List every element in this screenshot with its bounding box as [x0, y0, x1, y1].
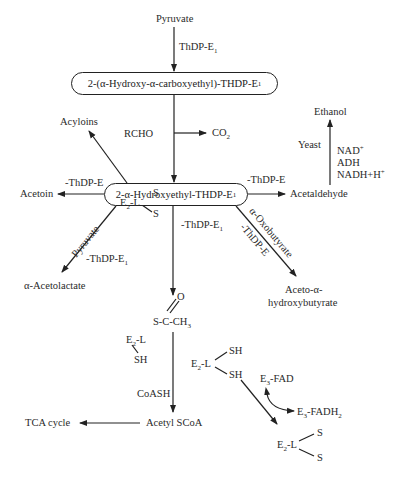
sub: 3	[187, 322, 191, 330]
node-pyruvate: Pyruvate	[156, 14, 193, 25]
l-text: -L	[130, 197, 140, 208]
e2-lipoyl-oxidized-mid: E2-L	[120, 198, 140, 209]
sup: +	[381, 168, 385, 176]
sub: 1	[214, 47, 218, 55]
label-nad: NAD+	[337, 146, 364, 157]
arrow-dihydrolipoyl-to-lipoyl	[241, 380, 277, 424]
arrow-aceto-hydroxybutyrate	[236, 206, 296, 276]
label-nadh: NADH+H+	[337, 170, 385, 181]
node-e3-fadh2: E3-FADH2	[297, 407, 342, 418]
label-minus-thdp-e-left: -ThDP-E	[65, 178, 104, 189]
arrow-acyloins	[89, 131, 127, 183]
label-rcho: RCHO	[124, 129, 153, 140]
sub: 2	[227, 133, 231, 141]
l-text: -L	[287, 439, 297, 450]
node-hydroxy-carboxyethyl-thdp: 2-(α-Hydroxy-α-carboxyethyl)-THDP-E1	[71, 72, 278, 95]
node-ethanol: Ethanol	[314, 107, 347, 118]
s-atom: S	[153, 209, 159, 220]
fad-text: -FAD	[270, 373, 294, 384]
label-minus-thdp-e1-mid: -ThDP-E1	[181, 220, 223, 231]
label-minus-thdp-e1-left: -ThDP-E1	[86, 254, 128, 265]
nadh-text: NADH+H	[337, 169, 381, 180]
label-adh: ADH	[337, 158, 360, 169]
e2-dihydrolipoyl: E2-L	[191, 359, 211, 370]
node-acetaldehyde: Acetaldehyde	[290, 189, 348, 200]
e2-lipoyl-oxidized-bottom: E2-L	[277, 440, 297, 451]
s-atom: S	[317, 428, 323, 439]
nad-text: NAD	[337, 145, 360, 156]
sub: 2	[338, 412, 342, 420]
l-text: -L	[136, 334, 146, 345]
node-acetyl-lipoyl: S-C-CH3	[153, 317, 191, 328]
node-aceto-hydroxybutyrate-line1: Aceto-α-	[285, 285, 323, 296]
node-acetolactate: α-Acetolactate	[24, 281, 85, 292]
label-yeast: Yeast	[298, 140, 321, 151]
e2-lipoyl-acetyl: E2-L	[126, 335, 146, 346]
label-thdp-e1-text: ThDP-E	[179, 41, 214, 52]
sub: 1	[125, 259, 129, 267]
sh-group: SH	[229, 370, 242, 381]
node-aceto-hydroxybutyrate-line2: hydroxybutyrate	[268, 298, 337, 309]
fadh-text: -FADH	[307, 406, 338, 417]
s-atom: S	[153, 188, 159, 199]
sub: 1	[220, 225, 224, 233]
label-thdp-e1: ThDP-E1	[179, 42, 218, 53]
s-atom: S	[317, 453, 323, 464]
node-e3-fad: E3-FAD	[260, 374, 294, 385]
node-tca-cycle: TCA cycle	[25, 418, 70, 429]
sh-group: SH	[229, 346, 242, 357]
co2-text: CO	[212, 127, 227, 138]
l-text: -L	[201, 358, 211, 369]
sup: +	[360, 144, 364, 152]
label-co2: CO2	[212, 128, 230, 139]
label-coash: CoASH	[137, 389, 170, 400]
node-acyloins: Acyloins	[60, 117, 98, 128]
label-text: -ThDP-E	[86, 253, 125, 264]
arrow-fad-fadh2	[267, 394, 294, 411]
label-text: -ThDP-E	[181, 219, 220, 230]
label-minus-thdp-e-right: -ThDP-E	[247, 175, 286, 186]
sh-group: SH	[134, 355, 147, 366]
node-acetyl-scoa: Acetyl SCoA	[146, 418, 202, 429]
oxygen-atom: O	[177, 292, 185, 303]
node-text: 2-(α-Hydroxy-α-carboxyethyl)-THDP-E	[88, 78, 258, 89]
node-text: S-C-CH	[153, 316, 187, 327]
node-acetoin: Acetoin	[20, 189, 53, 200]
